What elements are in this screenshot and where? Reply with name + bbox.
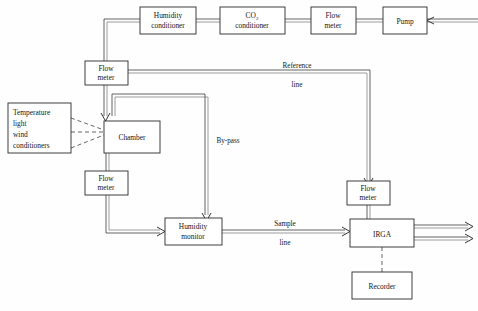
humidity-monitor-line1: Humidity [179,222,208,231]
humidity-monitor-line2: monitor [181,232,205,241]
pipe-inlet-to-pump [427,17,478,24]
pipe-reference-line [128,70,373,186]
pipe-flowmeter-to-humidity-monitor [106,195,165,236]
flow-meter-left-lower-line1: Flow [98,174,114,183]
humidity-conditioner-line2: conditioner [151,21,185,30]
flow-meter-top-line1: Flow [325,11,341,20]
pipe-flowmeter-to-co2 [285,19,311,22]
pipe-flowmeter-to-chamber [101,85,110,121]
box-flow-meter-top[interactable]: Flow meter [311,7,356,34]
flow-meter-left-upper-line2: meter [98,73,115,82]
control-link-wind [71,135,104,148]
box-flow-meter-left-upper[interactable]: Flow meter [85,61,128,85]
pipe-chamber-top-branch [112,94,208,116]
box-chamber[interactable]: Chamber [104,121,160,153]
conditioners-line4: conditioners [13,141,50,150]
box-flow-meter-right[interactable]: Flow meter [347,181,390,205]
pump-label: Pump [396,17,414,26]
label-sample-bottom: line [280,239,291,247]
label-reference-bottom: line [292,81,303,89]
pipe-flowmeter-right-to-irga [367,205,370,219]
pipe-chamber-to-flowmeter-lower [106,153,109,171]
label-bypass: By-pass [216,137,239,145]
pipe-pump-to-flowmeter-top [356,19,383,22]
flow-meter-right-line2: meter [360,193,377,202]
box-flow-meter-left-lower[interactable]: Flow meter [85,171,128,195]
box-co2-conditioner[interactable]: CO2 conditioner [220,7,285,34]
label-reference-top: Reference [282,62,311,70]
flow-meter-left-lower-line2: meter [98,183,115,192]
box-humidity-monitor[interactable]: Humidity monitor [165,218,222,245]
pipe-co2-to-humidity-conditioner [196,19,220,22]
diagram-canvas: Humidity conditioner CO2 conditioner Flo… [0,0,478,311]
flow-meter-top-line2: meter [325,21,342,30]
box-pump[interactable]: Pump [383,7,427,34]
control-link-temperature [71,118,104,130]
co2-conditioner-line2: conditioner [235,21,269,30]
box-irga[interactable]: IRGA [350,219,414,247]
conditioners-line3: wind [13,130,28,139]
pipe-bypass-line [202,94,211,221]
co2-conditioner-line1: CO [246,11,257,20]
irga-label: IRGA [373,230,392,239]
pipe-irga-outlet-lower [414,234,473,243]
box-recorder[interactable]: Recorder [352,272,412,299]
recorder-label: Recorder [368,282,396,291]
pipe-humcond-to-flowmeter-left [104,19,140,61]
flow-diagram: Humidity conditioner CO2 conditioner Flo… [0,0,478,311]
conditioners-line2: light [13,119,27,128]
humidity-conditioner-line1: Humidity [154,11,183,20]
label-sample-top: Sample [274,220,296,228]
conditioners-line1: Temperature [13,108,51,117]
pipe-sample-line [222,227,350,236]
box-humidity-conditioner[interactable]: Humidity conditioner [140,7,196,34]
pipe-irga-outlet-upper [414,222,473,231]
box-conditioners[interactable]: Temperature light wind conditioners [8,103,71,153]
flow-meter-left-upper-line1: Flow [98,64,114,73]
flow-meter-right-line1: Flow [360,184,376,193]
chamber-label: Chamber [118,133,146,142]
